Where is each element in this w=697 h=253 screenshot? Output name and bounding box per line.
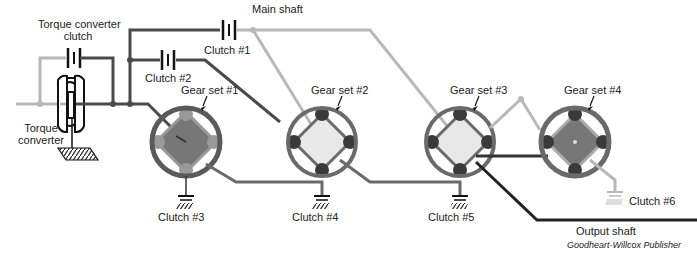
tcc-label-line1: Torque converter — [38, 18, 118, 30]
gear-set-1-label: Gear set #1 — [181, 84, 238, 96]
main-shaft-label: Main shaft — [252, 3, 303, 15]
tc-label-line2: converter — [12, 134, 70, 146]
torque-converter-icon — [58, 76, 130, 160]
gear-set-2-icon — [287, 96, 430, 209]
clutch-1-icon — [223, 20, 235, 40]
tcc-label-line2: clutch — [38, 30, 118, 42]
torque-converter-clutch-label: Torque converter clutch — [38, 18, 118, 42]
gear-set-4-icon — [540, 96, 623, 205]
clutch-2-label: Clutch #2 — [145, 72, 191, 84]
input-shaft — [16, 101, 60, 107]
gear-set-2-label: Gear set #2 — [311, 84, 368, 96]
output-shaft-label: Output shaft — [576, 225, 636, 237]
gear-set-4-label: Gear set #4 — [564, 84, 621, 96]
torque-converter-label: Torque converter — [12, 122, 70, 146]
clutch-5-label: Clutch #5 — [428, 211, 474, 223]
gear-set-3-label: Gear set #3 — [450, 84, 507, 96]
tc-label-line1: Torque — [12, 122, 70, 134]
clutch-3-label: Clutch #3 — [158, 211, 204, 223]
clutch-4-label: Clutch #4 — [292, 211, 338, 223]
clutch-1-label: Clutch #1 — [204, 44, 250, 56]
clutch-6-label: Clutch #6 — [629, 195, 675, 207]
publisher-credit: Goodheart-Willcox Publisher — [567, 240, 681, 250]
